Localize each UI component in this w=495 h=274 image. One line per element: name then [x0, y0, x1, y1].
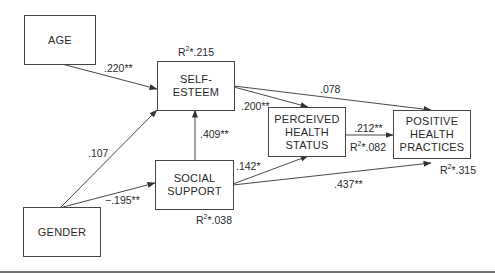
node-gender: GENDER: [23, 207, 101, 257]
coef-self-esteem-to-positive-practices: .078: [320, 83, 340, 95]
coef-gender-to-self-esteem: .107: [88, 147, 108, 159]
r2-value: *.038: [208, 214, 233, 226]
node-perceived-health-label-3: STATUS: [286, 139, 329, 152]
r2-positive-practices: R2*.315: [440, 164, 476, 176]
node-social-support: SOCIAL SUPPORT: [155, 160, 234, 210]
r2-prefix: R: [350, 141, 358, 153]
r2-social-support: R2*.038: [196, 214, 232, 226]
r2-value: *.315: [452, 164, 477, 176]
node-self-esteem-label-2: ESTEEM: [173, 86, 219, 99]
coef-gender-to-social-support: −.195**: [105, 194, 140, 206]
node-social-support-label-2: SUPPORT: [167, 185, 221, 198]
node-self-esteem: SELF- ESTEEM: [157, 61, 235, 111]
coef-self-esteem-to-perceived-health: .200**: [241, 100, 270, 112]
r2-perceived-health: R2*.082: [350, 141, 386, 153]
node-social-support-label-1: SOCIAL: [174, 172, 216, 185]
node-perceived-health-status: PERCEIVED HEALTH STATUS: [268, 107, 346, 157]
coef-social-support-to-self-esteem: .409**: [200, 128, 229, 140]
r2-self-esteem: R2*.215: [178, 46, 214, 58]
node-positive-practices-label-1: POSITIVE: [406, 115, 458, 128]
r2-value: *.082: [362, 141, 387, 153]
r2-prefix: R: [178, 46, 186, 58]
node-self-esteem-label-1: SELF-: [180, 73, 212, 86]
node-gender-label: GENDER: [38, 226, 86, 239]
coef-social-support-to-perceived-health: .142*: [236, 160, 261, 172]
node-positive-practices-label-2: HEALTH: [410, 128, 454, 141]
coef-social-support-to-positive-practices: .437**: [334, 178, 363, 190]
node-positive-practices-label-3: PRACTICES: [400, 141, 465, 154]
node-age: AGE: [24, 15, 96, 65]
node-age-label: AGE: [48, 34, 72, 47]
r2-value: *.215: [190, 46, 215, 58]
coef-perceived-health-to-positive-practices: .212**: [354, 122, 383, 134]
r2-prefix: R: [196, 214, 204, 226]
arrow-gender-to-self-esteem: [61, 110, 157, 207]
node-perceived-health-label-2: HEALTH: [285, 126, 329, 139]
node-perceived-health-label-1: PERCEIVED: [274, 113, 339, 126]
arrow-social-support-to-positive-practices: [233, 163, 431, 185]
bottom-rule: [0, 271, 495, 273]
node-positive-health-practices: POSITIVE HEALTH PRACTICES: [393, 110, 471, 159]
coef-age-to-self-esteem: .220**: [104, 62, 133, 74]
r2-prefix: R: [440, 164, 448, 176]
